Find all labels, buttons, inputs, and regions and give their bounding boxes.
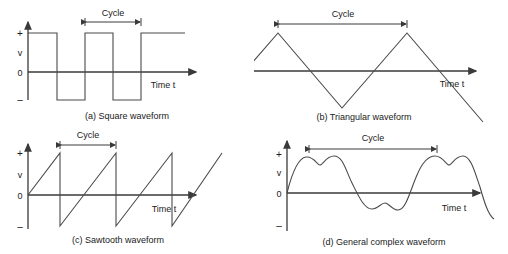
voltage-label: v [277, 168, 282, 178]
panel-caption: (a) Square waveform [85, 111, 169, 121]
cycle-label: Cycle [362, 133, 385, 143]
panel-general-complex-waveform: Cycle + v 0 – Time t (d) General complex… [254, 127, 508, 254]
cycle-label: Cycle [102, 8, 125, 18]
panel-triangular-waveform: Cycle + v 0 – Time t (b) Triangular wave… [254, 0, 508, 127]
plus-label: + [276, 149, 282, 160]
voltage-label: v [18, 170, 23, 180]
triangular-wave-trace [254, 33, 483, 122]
time-axis-label: Time t [152, 204, 177, 214]
sawtooth-wave-trace [28, 153, 222, 226]
square-waveform-chart: Cycle + v 0 – Time t (a) Square waveform [0, 0, 254, 127]
time-axis-label: Time t [440, 79, 465, 89]
panel-caption: (c) Sawtooth waveform [72, 235, 164, 245]
minus-label: – [17, 94, 23, 105]
voltage-label: v [18, 48, 23, 58]
general-complex-waveform-chart: Cycle + v 0 – Time t (d) General complex… [254, 127, 508, 254]
sawtooth-waveform-chart: Cycle + v 0 – Time t (c) Sawtooth wavefo… [0, 127, 254, 254]
cycle-label: Cycle [77, 130, 100, 140]
waveform-figure: Cycle + v 0 – Time t (a) Square waveform [0, 0, 508, 254]
plus-label: + [17, 148, 23, 159]
panel-caption: (b) Triangular waveform [316, 112, 411, 122]
minus-label: – [276, 220, 282, 231]
panel-sawtooth-waveform: Cycle + v 0 – Time t (c) Sawtooth wavefo… [0, 127, 254, 254]
zero-label: 0 [17, 191, 22, 201]
zero-label: 0 [276, 189, 281, 199]
minus-label: – [17, 221, 23, 232]
zero-label: 0 [17, 68, 22, 78]
cycle-label: Cycle [332, 9, 355, 19]
triangular-waveform-chart: Cycle + v 0 – Time t (b) Triangular wave… [254, 0, 508, 127]
panel-square-waveform: Cycle + v 0 – Time t (a) Square waveform [0, 0, 254, 127]
panel-caption: (d) General complex waveform [322, 237, 445, 247]
time-axis-label: Time t [151, 80, 176, 90]
plus-label: + [17, 28, 23, 39]
time-axis-label: Time t [442, 203, 467, 213]
